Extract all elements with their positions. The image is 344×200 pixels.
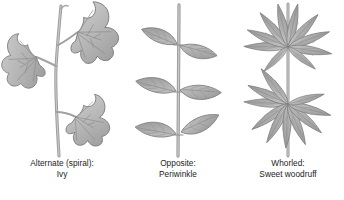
ivy-leaf <box>0 29 48 94</box>
caption-whorled: Whorled: Sweet woodruff <box>232 158 344 179</box>
panel-whorled: Whorled: Sweet woodruff <box>232 0 344 200</box>
woodruff-leaf <box>287 92 325 106</box>
sweet-woodruff-illustration <box>232 0 344 158</box>
periwinkle-leaf <box>178 112 222 138</box>
panel-opposite: Opposite: Periwinkle <box>124 0 232 200</box>
periwinkle-leaf <box>178 38 218 65</box>
caption-alternate: Alternate (spiral): Ivy <box>0 158 124 179</box>
arrangement-label: Whorled: <box>232 158 344 169</box>
species-label: Ivy <box>0 169 124 180</box>
ivy-leaf <box>62 89 119 153</box>
caption-opposite: Opposite: Periwinkle <box>124 158 232 179</box>
periwinkle-leaf <box>140 20 180 51</box>
ivy-leaf <box>69 0 123 67</box>
leaf-arrangement-figure: Alternate (spiral): Ivy <box>0 0 344 200</box>
periwinkle-leaf <box>134 70 178 99</box>
arrangement-label: Alternate (spiral): <box>0 158 124 169</box>
ivy-stem <box>56 6 68 156</box>
periwinkle-leaf <box>134 116 178 143</box>
cropped-text-sliver <box>0 192 344 200</box>
periwinkle-leaf <box>179 81 222 104</box>
panel-alternate: Alternate (spiral): Ivy <box>0 0 124 200</box>
ivy-illustration <box>0 0 124 158</box>
arrangement-label: Opposite: <box>124 158 232 169</box>
species-label: Periwinkle <box>124 169 232 180</box>
periwinkle-illustration <box>124 0 232 158</box>
species-label: Sweet woodruff <box>232 169 344 180</box>
